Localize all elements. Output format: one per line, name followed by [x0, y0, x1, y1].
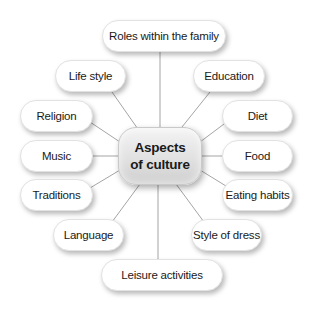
connector-religion	[90, 122, 120, 142]
connector-traditions	[90, 170, 120, 188]
node-label: Music	[42, 150, 71, 162]
node-label: Traditions	[32, 189, 80, 201]
node-food: Food	[222, 140, 293, 172]
node-label: Diet	[248, 110, 268, 122]
culture-mind-map: Roles within the family Life style Educa…	[0, 0, 314, 310]
connector-eating	[200, 170, 226, 186]
node-language: Language	[53, 219, 124, 251]
node-label: Roles within the family	[109, 30, 219, 42]
node-music: Music	[20, 140, 93, 172]
node-style-of-dress: Style of dress	[191, 219, 262, 251]
node-label: Food	[245, 150, 270, 162]
node-life-style: Life style	[55, 60, 126, 92]
node-religion: Religion	[20, 100, 93, 132]
connector-education	[178, 92, 210, 132]
node-label: Leisure activities	[121, 269, 202, 281]
connector-diet	[200, 124, 224, 142]
node-diet: Diet	[222, 100, 293, 132]
node-label: Life style	[69, 70, 112, 82]
node-label: Style of dress	[193, 229, 260, 241]
node-label: Language	[64, 229, 114, 241]
node-roles-within-the-family: Roles within the family	[102, 20, 226, 52]
node-label: Religion	[37, 110, 77, 122]
node-traditions: Traditions	[20, 179, 93, 211]
node-leisure-activities: Leisure activities	[101, 259, 223, 291]
connector-lifestyle	[112, 92, 140, 132]
center-label-line1: Aspects	[134, 139, 185, 156]
node-eating-habits: Eating habits	[222, 179, 293, 211]
connector-language	[112, 184, 140, 222]
node-education: Education	[193, 60, 265, 92]
node-label: Eating habits	[226, 189, 290, 201]
center-label-line2: of culture	[130, 156, 190, 173]
connector-dress	[176, 184, 204, 222]
center-node-aspects-of-culture: Aspects of culture	[118, 127, 202, 185]
node-label: Education	[204, 70, 253, 82]
